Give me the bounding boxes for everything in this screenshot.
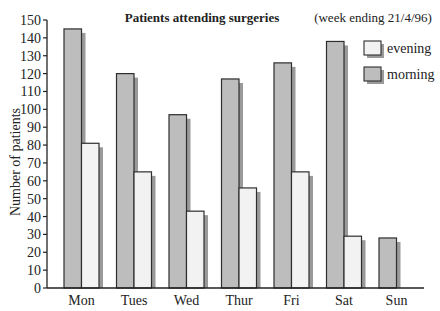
- x-tick-label: Mon: [68, 293, 94, 308]
- y-tick-label: 60: [27, 174, 41, 189]
- y-tick-label: 0: [34, 281, 41, 296]
- x-tick-label: Wed: [174, 293, 199, 308]
- x-tick-label: Thur: [225, 293, 253, 308]
- y-tick-label: 30: [27, 227, 41, 242]
- bar-morning-fri: [274, 63, 292, 288]
- chart-title: Patients attending surgeries: [125, 10, 280, 25]
- bar-evening-wed: [187, 211, 205, 288]
- bar-chart: 0102030405060708090100110120130140150 Mo…: [0, 0, 440, 311]
- y-tick-label: 50: [27, 192, 41, 207]
- y-tick-label: 80: [27, 138, 41, 153]
- y-ticks: 0102030405060708090100110120130140150: [20, 13, 47, 296]
- x-tick-label: Sun: [386, 293, 408, 308]
- bar-evening-thur: [239, 188, 257, 288]
- x-tick-label: Tues: [121, 293, 148, 308]
- legend-label-morning: morning: [387, 67, 434, 82]
- y-axis-label: Number of patients: [8, 108, 23, 216]
- x-tick-label: Fri: [283, 293, 299, 308]
- bar-morning-sun: [379, 238, 397, 288]
- x-tick-label: Sat: [335, 293, 353, 308]
- y-tick-label: 150: [20, 13, 41, 28]
- legend-label-evening: evening: [387, 41, 431, 56]
- bar-morning-wed: [169, 115, 187, 288]
- y-tick-label: 40: [27, 210, 41, 225]
- y-tick-label: 90: [27, 120, 41, 135]
- y-tick-label: 70: [27, 156, 41, 171]
- y-tick-label: 10: [27, 263, 41, 278]
- x-tick-labels: MonTuesWedThurFriSatSun: [68, 293, 407, 308]
- y-tick-label: 140: [20, 31, 41, 46]
- bar-morning-mon: [64, 29, 82, 288]
- y-tick-label: 100: [20, 102, 41, 117]
- bar-evening-tues: [134, 172, 152, 288]
- bar-evening-fri: [292, 172, 310, 288]
- y-tick-label: 120: [20, 67, 41, 82]
- y-tick-label: 130: [20, 49, 41, 64]
- legend-swatch-evening: [364, 41, 381, 55]
- legend: eveningmorning: [364, 41, 434, 84]
- bar-morning-tues: [117, 74, 135, 288]
- chart-subtitle: (week ending 21/4/96): [314, 10, 432, 25]
- legend-swatch-morning: [364, 67, 381, 81]
- bar-evening-mon: [82, 143, 100, 288]
- bar-evening-sat: [344, 236, 362, 288]
- bar-morning-sat: [327, 41, 345, 288]
- y-tick-label: 110: [21, 84, 41, 99]
- y-tick-label: 20: [27, 245, 41, 260]
- bar-morning-thur: [222, 79, 240, 288]
